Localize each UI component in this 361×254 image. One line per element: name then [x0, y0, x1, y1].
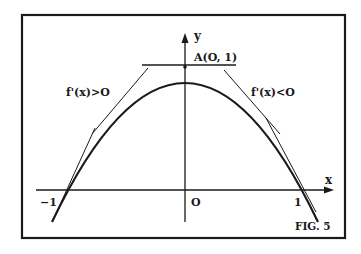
x-axis-label: x: [325, 173, 333, 187]
origin-label: O: [191, 196, 201, 209]
y-axis-arrow-icon: [182, 33, 189, 43]
x-axis-arrow-icon: [324, 187, 334, 194]
tangent-left-2: [92, 68, 148, 134]
annotation-increasing: f'(x)>O: [66, 86, 110, 99]
tangent-right-2: [266, 118, 316, 212]
annotation-decreasing: f'(x)<O: [251, 86, 295, 99]
x-tick-pos-label: 1: [294, 196, 302, 209]
figure-diagram: y x A(O, 1) O −1 1 f'(x)>O f'(x)<O FIG. …: [0, 0, 361, 254]
x-tick-neg-label: −1: [40, 196, 57, 209]
figure-caption: FIG. 5: [295, 220, 331, 232]
y-axis-label: y: [193, 29, 202, 43]
tangent-left-1: [53, 128, 95, 220]
vertex-point: [183, 65, 187, 69]
vertex-label: A(O, 1): [193, 51, 237, 64]
